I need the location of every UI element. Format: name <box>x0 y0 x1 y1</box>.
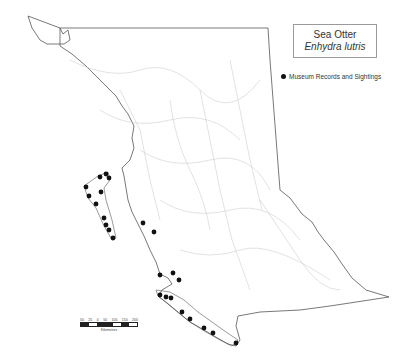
map-legend: Museum Records and Sightings <box>281 73 381 80</box>
occurrence-point <box>202 326 207 331</box>
filled-circle-icon <box>281 74 286 79</box>
scale-tick: 150 <box>122 318 128 322</box>
scale-tick: 50 <box>103 318 107 322</box>
occurrence-point <box>87 194 92 199</box>
occurrence-point <box>104 172 109 177</box>
scale-tick: 100 <box>111 318 117 322</box>
species-common-name: Sea Otter <box>294 29 376 41</box>
scale-tick: 25 <box>88 318 92 322</box>
occurrence-point <box>158 293 163 298</box>
occurrence-point <box>152 230 157 235</box>
river-network <box>70 60 340 290</box>
scale-bar: 50 25 0 50 100 150 200 Kilometres <box>80 318 138 332</box>
occurrence-point <box>177 278 182 283</box>
occurrence-point <box>107 228 112 233</box>
occurrence-point <box>107 176 112 181</box>
species-latin-name: Enhydra lutris <box>294 41 376 53</box>
occurrence-point <box>84 185 89 190</box>
occurrence-point <box>164 295 169 300</box>
scale-tick: 0 <box>97 318 99 322</box>
scale-tick: 200 <box>132 318 138 322</box>
legend-label: Museum Records and Sightings <box>289 73 381 80</box>
scale-bar-graphic <box>80 322 138 327</box>
scale-unit: Kilometres <box>80 328 138 332</box>
occurrence-point <box>98 175 103 180</box>
occurrence-point <box>141 221 146 226</box>
occurrence-point <box>169 296 174 301</box>
occurrence-point <box>94 202 99 207</box>
map-title-box: Sea Otter Enhydra lutris <box>293 24 377 58</box>
occurrence-point <box>99 190 104 195</box>
occurrence-point <box>180 310 185 315</box>
occurrence-point <box>158 273 163 278</box>
occurrence-point <box>188 317 193 322</box>
occurrence-point <box>171 271 176 276</box>
vancouver-island-outline <box>156 290 238 346</box>
occurrence-point <box>104 223 109 228</box>
scale-tick: 50 <box>80 318 84 322</box>
occurrence-point <box>102 216 107 221</box>
occurrence-point <box>234 341 239 346</box>
occurrence-point <box>111 236 116 241</box>
occurrence-point <box>211 331 216 336</box>
